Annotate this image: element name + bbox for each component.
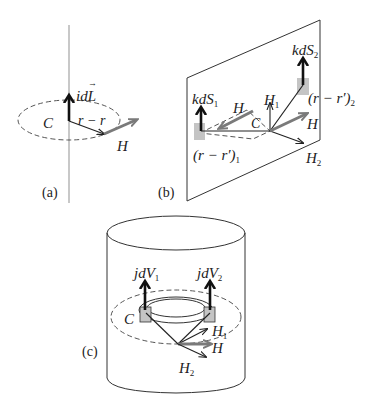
- label-field-h: H: [116, 138, 129, 154]
- label-field-h1: H1: [211, 323, 227, 341]
- figure-canvas: idL → C r − r H (a) kdS1 kdS2 H H1: [0, 0, 379, 403]
- field-h2-arrow: [178, 344, 206, 357]
- caption-c: (c): [82, 344, 98, 360]
- caption-a: (a): [42, 185, 58, 201]
- caption-b: (b): [158, 185, 175, 201]
- vector-mark-icon: →: [88, 78, 97, 88]
- field-h2-arrow: [270, 131, 303, 143]
- label-kds2: kdS2: [292, 42, 318, 60]
- label-field-h1: H1: [263, 92, 279, 110]
- label-displacement-1: (r − r′)1: [193, 147, 240, 165]
- physics-diagram: idL → C r − r H (a) kdS1 kdS2 H H1: [0, 0, 379, 403]
- label-jdv2: jdV2: [195, 265, 222, 283]
- label-idl: idL: [76, 88, 96, 104]
- label-displacement-2: (r − r′)2: [308, 90, 355, 108]
- label-field-h2: H2: [178, 360, 194, 378]
- label-contour-c: C: [43, 115, 54, 131]
- label-field-h: H: [232, 100, 245, 116]
- cylinder-top: [107, 216, 245, 250]
- label-field-h-right: H: [306, 116, 319, 132]
- label-kds1: kdS1: [192, 91, 218, 109]
- label-jdv1: jdV1: [132, 265, 159, 283]
- label-contour-c: C: [251, 116, 261, 131]
- label-contour-c: C: [124, 311, 135, 327]
- panel-c: jdV1 jdV2 C H1 H H2 (c): [82, 216, 245, 393]
- label-field-h2: H2: [305, 150, 321, 168]
- label-field-h: H: [211, 340, 224, 356]
- panel-b: kdS1 kdS2 H H1 C H H2 (r − r′)1 (r − r′)…: [158, 20, 355, 201]
- panel-a: idL → C r − r H (a): [18, 25, 136, 203]
- label-displacement: r − r: [78, 113, 106, 128]
- displacement-1-line: [146, 313, 178, 344]
- current-ring-inner: [147, 299, 205, 317]
- displacement-2-line: [178, 313, 210, 344]
- cylinder-bottom: [107, 378, 245, 393]
